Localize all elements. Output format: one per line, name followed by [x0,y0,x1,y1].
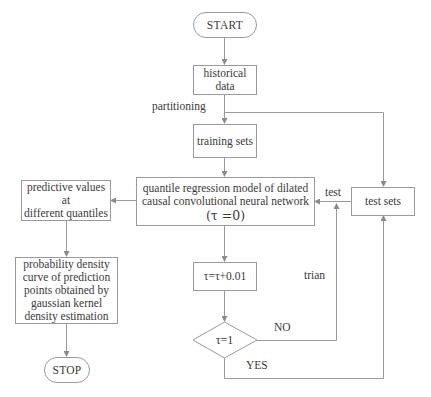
historical-data-line2: data [215,80,234,93]
test-sets-box: test sets [351,187,415,216]
yes-label: YES [246,359,268,372]
probability-density-box: probability density curve of prediction … [15,257,118,324]
quantile-model-line3: (τ =0) [206,209,245,222]
probability-density-line4: gaussian kernel [31,297,102,310]
predictive-values-line1: predictive values at [22,181,110,207]
no-label: NO [274,321,291,334]
quantile-model-line1: quantile regression model of dilated [143,182,308,195]
historical-data-box: historical data [193,65,257,95]
test-label: test [325,186,341,199]
tau-increment-label: τ=τ+0.01 [204,270,246,283]
stop-terminal: STOP [44,357,90,383]
probability-density-line3: points obtained by [24,284,109,297]
tau-decision-label: τ=1 [208,333,241,348]
test-sets-label: test sets [365,195,401,208]
probability-density-line2: curve of prediction [23,271,111,284]
edge-decision-yes-to-test-sets [225,216,384,379]
start-label: START [207,19,243,32]
historical-data-line1: historical [204,67,247,80]
stop-label: STOP [52,364,81,377]
probability-density-line5: density estimation [24,310,108,323]
probability-density-line1: probability density [23,258,110,271]
training-sets-box: training sets [193,124,257,158]
trian-label: trian [304,269,325,282]
predictive-values-line2: different quantiles [24,207,108,220]
predictive-values-box: predictive values at different quantiles [21,180,111,221]
start-terminal: START [193,12,257,38]
partitioning-label: partitioning [152,100,206,113]
quantile-model-line2: causal convolutional neural network [142,195,309,208]
training-sets-label: training sets [197,135,253,148]
quantile-model-box: quantile regression model of dilated cau… [136,177,315,226]
tau-increment-box: τ=τ+0.01 [193,262,257,291]
